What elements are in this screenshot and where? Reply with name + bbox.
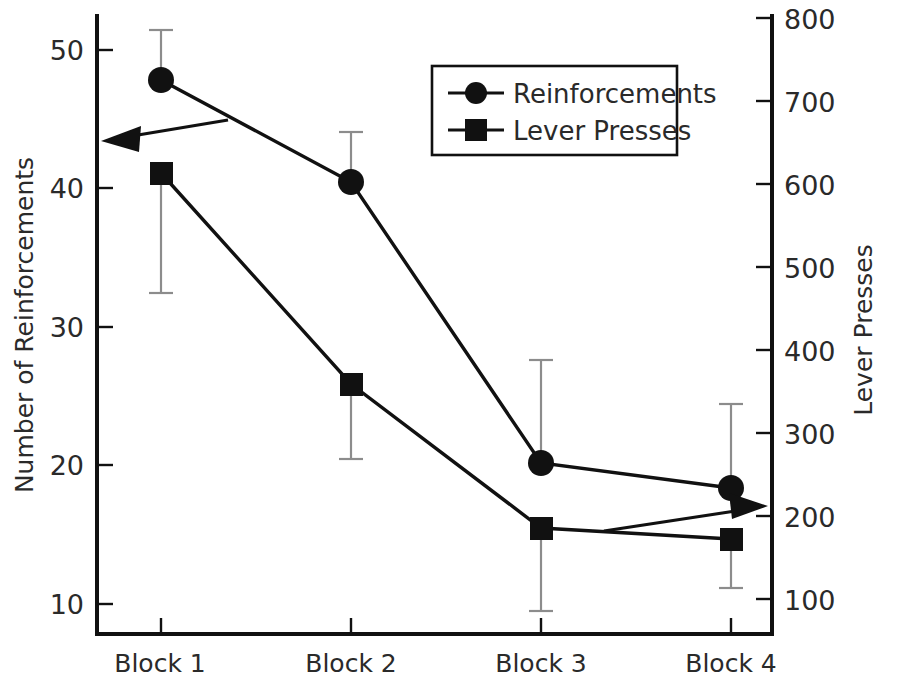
right-ticklabel-300: 300: [784, 419, 836, 450]
lever-presses-line: [161, 173, 731, 539]
marker-lever-presses-block-2: [340, 373, 363, 396]
x-label-block-1: Block 1: [114, 649, 205, 678]
right-ticklabel-600: 600: [784, 170, 836, 201]
marker-lever-presses-block-1: [150, 162, 173, 185]
chart-svg: 50 40 30 20 10 Number of Reinforcements …: [0, 0, 897, 687]
legend-marker-square-icon: [465, 119, 487, 141]
x-label-block-3: Block 3: [495, 649, 586, 678]
marker-lever-presses-block-3: [530, 517, 553, 540]
right-axis-ticklabels: 800 700 600 500 400 300 200 100: [784, 4, 836, 616]
left-axis-arrow-head-icon: [101, 126, 141, 152]
right-ticklabel-100: 100: [784, 585, 836, 616]
legend-label-reinforcements: Reinforcements: [513, 79, 717, 109]
left-ticklabel-40: 40: [50, 173, 84, 204]
left-axis-ticklabels: 50 40 30 20 10: [50, 35, 84, 620]
series-lever-presses: [149, 162, 743, 611]
left-ticklabel-50: 50: [50, 35, 84, 66]
left-ticklabel-10: 10: [50, 589, 84, 620]
x-axis-category-labels: Block 1 Block 2 Block 3 Block 4: [114, 649, 776, 678]
marker-reinforcements-block-1: [148, 67, 174, 93]
marker-reinforcements-block-2: [338, 169, 364, 195]
right-ticklabel-800: 800: [784, 4, 836, 35]
marker-reinforcements-block-3: [528, 450, 554, 476]
lever-presses-errorbars: [149, 173, 743, 611]
x-axis-ticks: [161, 618, 731, 634]
right-ticklabel-400: 400: [784, 336, 836, 367]
left-ticklabel-30: 30: [50, 312, 84, 343]
left-axis-arrow: [101, 120, 228, 152]
right-axis-arrow-shaft: [604, 510, 742, 531]
right-ticklabel-200: 200: [784, 502, 836, 533]
x-label-block-4: Block 4: [685, 649, 776, 678]
lever-presses-markers: [150, 162, 743, 551]
marker-lever-presses-block-4: [720, 528, 743, 551]
legend-marker-circle-icon: [465, 82, 487, 104]
legend-label-lever-presses: Lever Presses: [513, 116, 691, 146]
right-ticklabel-500: 500: [784, 253, 836, 284]
left-ticklabel-20: 20: [50, 450, 84, 481]
left-axis-title: Number of Reinforcements: [10, 157, 39, 493]
right-axis-title: Lever Presses: [849, 244, 878, 415]
right-ticklabel-700: 700: [784, 87, 836, 118]
right-axis-ticks: [756, 18, 772, 599]
legend: Reinforcements Lever Presses: [432, 66, 717, 155]
right-axis-arrow: [604, 493, 768, 531]
x-label-block-2: Block 2: [305, 649, 396, 678]
chart-figure: 50 40 30 20 10 Number of Reinforcements …: [0, 0, 897, 687]
left-axis-arrow-shaft: [126, 120, 228, 137]
left-axis-ticks: [97, 50, 113, 604]
